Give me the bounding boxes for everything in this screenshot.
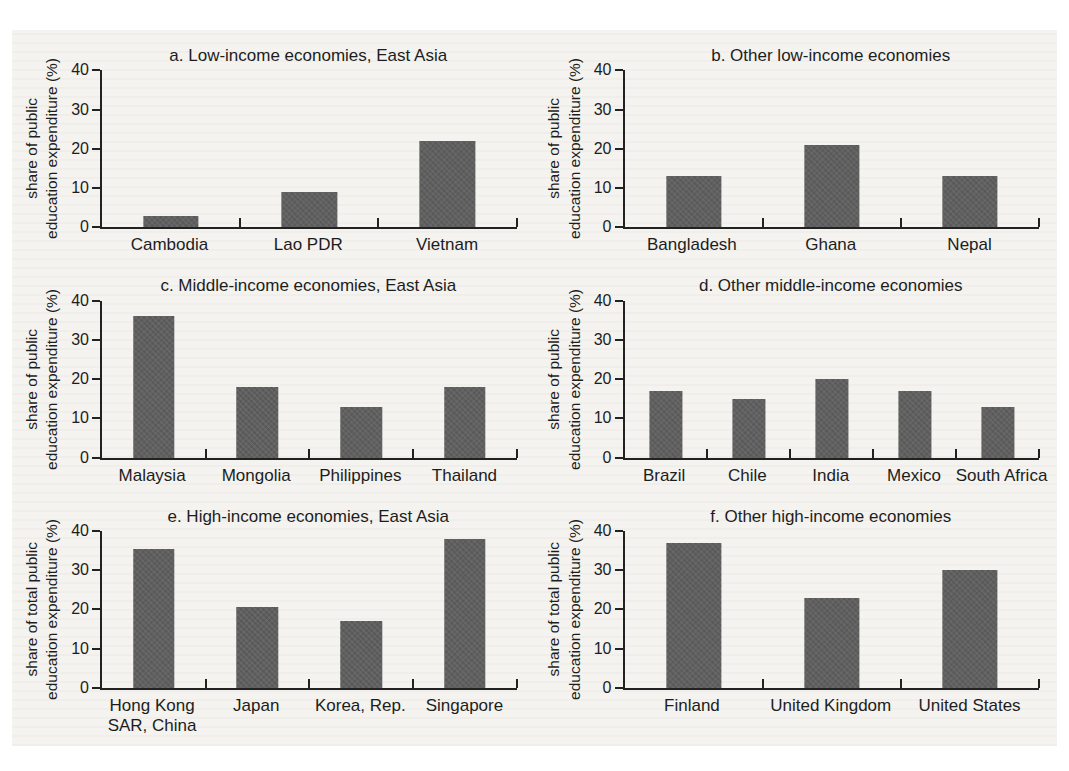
x-category-label: Lao PDR bbox=[239, 235, 378, 255]
panel-a-title: a. Low-income economies, East Asia bbox=[100, 46, 517, 70]
y-tick: 10 bbox=[594, 410, 623, 426]
y-tick: 20 bbox=[71, 601, 100, 617]
panel-b-y-axis-title: share of public education expenditure (%… bbox=[543, 70, 587, 227]
y-axis-title-line: share of public bbox=[22, 329, 42, 430]
y-tick: 30 bbox=[594, 332, 623, 348]
bar-united-kingdom bbox=[804, 598, 859, 688]
bar-slot bbox=[763, 531, 901, 688]
y-tick-label: 20 bbox=[594, 601, 612, 617]
bar-slot bbox=[206, 301, 310, 458]
y-axis-title-line: share of total public bbox=[22, 542, 42, 676]
y-tick-mark bbox=[615, 148, 623, 150]
y-tick: 0 bbox=[71, 680, 100, 696]
y-tick: 0 bbox=[71, 219, 100, 235]
y-tick-label: 20 bbox=[71, 601, 89, 617]
y-tick-mark bbox=[615, 226, 623, 228]
y-tick: 10 bbox=[594, 180, 623, 196]
y-tick-mark bbox=[92, 339, 100, 341]
x-category-label: Chile bbox=[706, 466, 789, 486]
y-tick-mark bbox=[92, 530, 100, 532]
y-tick-label: 40 bbox=[594, 523, 612, 539]
panel-b-plot-area bbox=[623, 70, 1040, 229]
y-tick-label: 20 bbox=[71, 371, 89, 387]
y-tick-label: 40 bbox=[594, 62, 612, 78]
bar-india bbox=[815, 379, 848, 458]
bar-slot bbox=[625, 531, 763, 688]
y-axis-title-line: share of public bbox=[22, 98, 42, 199]
y-tick: 30 bbox=[71, 562, 100, 578]
panel-a-plot-wrap: Cambodia Lao PDR Vietnam bbox=[100, 70, 517, 255]
y-tick-label: 20 bbox=[594, 371, 612, 387]
bar-slot bbox=[102, 70, 240, 227]
y-tick: 10 bbox=[71, 180, 100, 196]
bar-slot bbox=[309, 301, 413, 458]
y-tick: 40 bbox=[594, 523, 623, 539]
panel-c-y-axis: 40 30 20 10 0 bbox=[64, 301, 100, 458]
bar-korea-rep bbox=[340, 621, 381, 688]
y-tick: 10 bbox=[71, 410, 100, 426]
y-tick-mark bbox=[615, 300, 623, 302]
y-tick-mark bbox=[92, 687, 100, 689]
y-tick-mark bbox=[92, 148, 100, 150]
x-category-label: Vietnam bbox=[378, 235, 517, 255]
panel-c-y-axis-title: share of public education expenditure (%… bbox=[20, 301, 64, 458]
panel-b: b. Other low-income economies share of p… bbox=[543, 46, 1040, 255]
y-tick-mark bbox=[615, 530, 623, 532]
bar-slot bbox=[378, 70, 516, 227]
bar-singapore bbox=[444, 539, 485, 688]
x-category-label: Hong Kong SAR, China bbox=[100, 696, 204, 736]
y-tick-mark bbox=[615, 378, 623, 380]
panel-d-plot-area bbox=[623, 301, 1040, 460]
panel-b-x-labels: Bangladesh Ghana Nepal bbox=[623, 235, 1040, 255]
y-tick-label: 10 bbox=[71, 410, 89, 426]
y-tick-mark bbox=[615, 457, 623, 459]
y-tick: 40 bbox=[594, 293, 623, 309]
bar-lao-pdr bbox=[282, 192, 337, 227]
bar-slot bbox=[901, 531, 1039, 688]
y-axis-title-line: share of total public bbox=[544, 542, 564, 676]
y-tick-mark bbox=[92, 109, 100, 111]
y-tick-label: 30 bbox=[594, 562, 612, 578]
x-category-label: United Kingdom bbox=[761, 696, 900, 716]
panel-b-body: share of public education expenditure (%… bbox=[543, 70, 1040, 255]
x-category-label: Bangladesh bbox=[623, 235, 762, 255]
bar-slot bbox=[413, 531, 517, 688]
panel-f-x-labels: Finland United Kingdom United States bbox=[623, 696, 1040, 716]
panel-e-y-axis-title: share of total public education expendit… bbox=[20, 531, 64, 688]
panel-b-y-axis: 40 30 20 10 0 bbox=[587, 70, 623, 227]
y-axis-title-line: education expenditure (%) bbox=[42, 289, 62, 470]
y-axis-title-line: education expenditure (%) bbox=[565, 289, 585, 470]
y-axis-title-line: education expenditure (%) bbox=[565, 519, 585, 700]
y-tick-label: 10 bbox=[71, 641, 89, 657]
y-tick-mark bbox=[615, 569, 623, 571]
panel-b-title: b. Other low-income economies bbox=[623, 46, 1040, 70]
y-tick: 40 bbox=[71, 293, 100, 309]
panel-f-plot-wrap: Finland United Kingdom United States bbox=[623, 531, 1040, 716]
bar-slot bbox=[102, 301, 206, 458]
y-tick-label: 0 bbox=[594, 219, 612, 235]
bar-slot bbox=[206, 531, 310, 688]
panel-f-plot-area bbox=[623, 531, 1040, 690]
y-tick-mark bbox=[92, 187, 100, 189]
y-tick: 40 bbox=[594, 62, 623, 78]
bar-finland bbox=[666, 543, 721, 688]
y-tick: 0 bbox=[594, 680, 623, 696]
y-tick-label: 30 bbox=[71, 332, 89, 348]
panel-d-y-axis: 40 30 20 10 0 bbox=[587, 301, 623, 458]
y-tick: 30 bbox=[71, 102, 100, 118]
bar-philippines bbox=[340, 407, 381, 458]
y-tick-label: 40 bbox=[71, 62, 89, 78]
y-tick-mark bbox=[615, 608, 623, 610]
y-tick-label: 10 bbox=[594, 180, 612, 196]
y-tick-label: 10 bbox=[594, 641, 612, 657]
bar-slot bbox=[240, 70, 378, 227]
bar-hong-kong-sar-china bbox=[133, 549, 174, 688]
panel-d-y-axis-title: share of public education expenditure (%… bbox=[543, 301, 587, 458]
y-tick: 0 bbox=[71, 450, 100, 466]
y-tick-label: 0 bbox=[594, 680, 612, 696]
panel-e-x-labels: Hong Kong SAR, China Japan Korea, Rep. S… bbox=[100, 696, 517, 736]
x-category-label: Korea, Rep. bbox=[308, 696, 412, 736]
panel-e-plot-wrap: Hong Kong SAR, China Japan Korea, Rep. S… bbox=[100, 531, 517, 736]
bar-slot bbox=[413, 301, 517, 458]
y-tick-mark bbox=[92, 569, 100, 571]
